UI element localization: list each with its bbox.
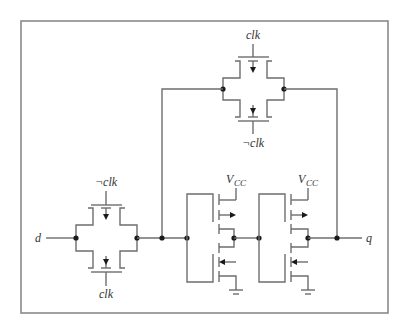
feedback-transmission-gate	[220, 44, 286, 134]
feedback-wire-left	[162, 89, 223, 238]
clock-label: clk	[99, 287, 114, 301]
arrow-left-icon	[291, 259, 297, 265]
arrow-right-icon	[302, 212, 308, 218]
vcc-subscript: CC	[306, 178, 319, 188]
input-transmission-gate	[46, 191, 140, 286]
clock-label: ¬clk	[242, 136, 265, 150]
input-label: d	[35, 231, 42, 245]
output-label: q	[366, 231, 372, 245]
arrow-left-icon	[219, 259, 225, 265]
inverter-2: V CC	[259, 172, 319, 294]
circuit-diagram: V CC V CC d q ¬clk clk clk ¬clk	[0, 0, 409, 331]
node-dot	[159, 235, 164, 240]
vcc-subscript: CC	[234, 178, 247, 188]
node-dot	[73, 235, 78, 240]
inverter-1: V CC	[187, 172, 247, 294]
clock-label: clk	[246, 28, 261, 42]
clock-label: ¬clk	[95, 175, 118, 189]
arrow-down-icon	[250, 108, 256, 114]
node-dot	[334, 235, 339, 240]
arrow-down-icon	[103, 214, 109, 220]
arrow-right-icon	[230, 212, 236, 218]
arrow-down-icon	[103, 259, 109, 265]
diagram-frame	[21, 21, 388, 313]
arrow-down-icon	[250, 67, 256, 73]
